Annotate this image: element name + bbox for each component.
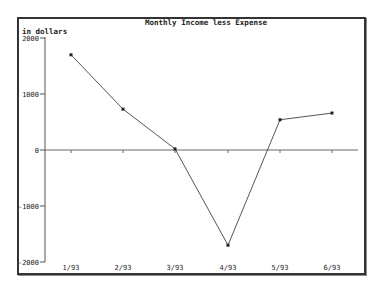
y-tick-label: -2000 — [18, 259, 39, 267]
x-tick-label: 6/93 — [324, 264, 341, 272]
x-tick-label: 5/93 — [272, 264, 289, 272]
y-axis-ticks: 200010000-1000-2000 — [18, 35, 45, 267]
data-point — [122, 108, 125, 111]
x-tick-label: 2/93 — [115, 264, 132, 272]
data-point — [279, 118, 282, 121]
x-tick-label: 3/93 — [167, 264, 184, 272]
x-tick-label: 1/93 — [63, 264, 80, 272]
chart-title: Monthly Income less Expense — [145, 18, 267, 27]
data-point — [174, 147, 177, 150]
line-chart: Monthly Income less Expense in dollars 2… — [0, 0, 382, 294]
data-point — [227, 244, 230, 247]
y-tick-label: 1000 — [22, 91, 39, 99]
x-axis-ticks: 1/932/933/934/935/936/93 — [63, 150, 341, 272]
data-point — [331, 112, 334, 115]
y-tick-label: 2000 — [22, 35, 39, 43]
y-tick-label: 0 — [35, 147, 39, 155]
x-tick-label: 4/93 — [220, 264, 237, 272]
y-tick-label: -1000 — [18, 203, 39, 211]
data-point — [70, 53, 73, 56]
